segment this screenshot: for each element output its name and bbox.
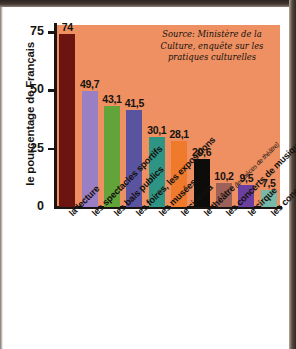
x-axis-category-labels: la lectureles spectacles sportifsles bal…	[0, 209, 296, 349]
bar-value-label: 49,7	[76, 78, 104, 90]
bar-value-label: 41,5	[120, 97, 148, 109]
source-note: Source: Ministère de la Culture, enquête…	[146, 29, 278, 64]
bar-value-label: 74	[53, 21, 81, 33]
bar-chart-figure: le pourcentage de Français 0255075 7449,…	[0, 0, 296, 349]
bar-value-label: 28,1	[165, 128, 193, 140]
